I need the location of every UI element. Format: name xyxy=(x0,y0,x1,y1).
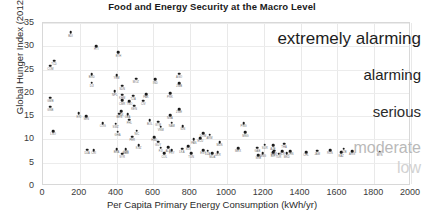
scatter-point-label: BIH xyxy=(271,155,276,158)
scatter-point xyxy=(113,90,116,93)
scatter-point-label: COG xyxy=(100,125,106,128)
scatter-point xyxy=(305,151,308,154)
band-label-alarming: alarming xyxy=(363,67,421,82)
scatter-point-label: PAN xyxy=(191,142,196,145)
scatter-point xyxy=(169,92,172,95)
x-tick-label: 1400 xyxy=(280,187,320,197)
scatter-point-label: HTI xyxy=(94,48,98,51)
scatter-point-label: TCD xyxy=(51,63,57,66)
scatter-point xyxy=(262,152,265,155)
scatter-point xyxy=(49,106,52,109)
scatter-point xyxy=(90,73,93,76)
scatter-point xyxy=(157,140,160,143)
scatter-point-label: LKA xyxy=(179,151,184,154)
scatter-point xyxy=(121,99,124,102)
x-tick-label: 1600 xyxy=(316,187,356,197)
scatter-point xyxy=(135,78,138,81)
scatter-point-label: KAZ xyxy=(338,155,343,158)
scatter-point-label: PRK xyxy=(167,96,173,99)
scatter-point-label: KEN xyxy=(131,108,137,111)
x-tick-label: 1200 xyxy=(243,187,283,197)
scatter-point xyxy=(272,151,275,154)
scatter-point-label: MOZ xyxy=(133,81,139,84)
scatter-point xyxy=(343,147,346,150)
scatter-point xyxy=(193,138,196,141)
x-tick-label: 400 xyxy=(96,187,136,197)
scatter-point xyxy=(86,148,89,151)
scatter-point-label: AGO xyxy=(176,76,182,79)
scatter-point-label: BEN xyxy=(117,116,123,119)
scatter-point xyxy=(187,145,190,148)
chart-title: Food and Energy Security at the Macro Le… xyxy=(0,1,424,12)
scatter-point-label: JOR xyxy=(123,151,129,154)
scatter-point xyxy=(133,105,136,108)
scatter-point xyxy=(257,154,260,157)
scatter-point-label: NGA xyxy=(167,117,173,120)
gridline-horizontal xyxy=(43,116,409,117)
scatter-point-label: GNB xyxy=(47,109,53,112)
scatter-point-label: BDI xyxy=(68,35,73,38)
scatter-point-label: KGZ xyxy=(136,147,142,150)
band-label-low: low xyxy=(397,160,421,176)
scatter-point xyxy=(136,129,139,132)
scatter-point xyxy=(208,133,211,136)
scatter-point-label: CIV xyxy=(141,103,146,106)
scatter-point xyxy=(125,147,128,150)
y-axis-label: Global Hunger Index (2012) xyxy=(14,0,25,131)
x-tick-label: 2000 xyxy=(390,187,424,197)
scatter-point xyxy=(128,119,131,122)
scatter-point-label: NPL xyxy=(112,94,117,97)
scatter-point xyxy=(137,144,140,147)
scatter-point xyxy=(128,100,131,103)
scatter-point-label: IDN xyxy=(180,128,185,131)
scatter-point xyxy=(145,93,148,96)
scatter-point-label: NIC xyxy=(134,133,139,136)
scatter-point xyxy=(190,152,193,155)
chart-root: Food and Energy Security at the Macro Le… xyxy=(0,0,424,220)
scatter-point xyxy=(153,136,156,139)
x-tick-label: 1000 xyxy=(206,187,246,197)
scatter-point-label: SEN xyxy=(83,118,89,121)
scatter-point xyxy=(277,153,280,156)
gridline-horizontal xyxy=(43,70,409,71)
scatter-point-label: PRY xyxy=(169,152,175,155)
scatter-point-label: GHA xyxy=(115,134,121,137)
scatter-point xyxy=(148,119,151,122)
scatter-point xyxy=(117,51,120,54)
scatter-point xyxy=(118,113,121,116)
scatter-point xyxy=(52,130,55,133)
x-tick-label: 200 xyxy=(59,187,99,197)
band-label-extremely-alarming: extremely alarming xyxy=(277,30,421,47)
scatter-point xyxy=(281,150,284,153)
scatter-point-label: SYR xyxy=(119,156,125,159)
scatter-point xyxy=(115,148,118,151)
scatter-point-label: GMB xyxy=(47,100,53,103)
scatter-point xyxy=(237,147,240,150)
scatter-point-label: PER xyxy=(129,139,135,142)
scatter-point xyxy=(171,121,174,124)
scatter-point xyxy=(242,122,245,125)
scatter-point xyxy=(218,141,221,144)
scatter-point xyxy=(102,122,105,125)
scatter-point xyxy=(142,99,145,102)
scatter-point xyxy=(283,142,286,145)
scatter-point-label: ARM xyxy=(206,137,212,140)
scatter-point-label: BRA xyxy=(114,151,120,154)
scatter-point-label: CMR xyxy=(119,103,125,106)
gridline-horizontal xyxy=(43,23,409,24)
scatter-point-label: CHL xyxy=(303,154,309,157)
scatter-point-label: VNM xyxy=(158,129,164,132)
scatter-point xyxy=(286,152,289,155)
scatter-point-label: TUN xyxy=(188,156,194,159)
scatter-point-label: COM xyxy=(47,68,53,71)
scatter-point-label: DJI xyxy=(90,85,94,88)
scatter-point xyxy=(53,59,56,62)
scatter-point-label: GAB xyxy=(254,150,260,153)
scatter-point-label: ZMB xyxy=(176,85,182,88)
scatter-point xyxy=(340,151,343,154)
scatter-point-label: SDN xyxy=(119,88,125,91)
scatter-point-label: PHL xyxy=(127,122,132,125)
scatter-point xyxy=(263,143,266,146)
scatter-point xyxy=(121,153,124,156)
scatter-point xyxy=(121,85,124,88)
